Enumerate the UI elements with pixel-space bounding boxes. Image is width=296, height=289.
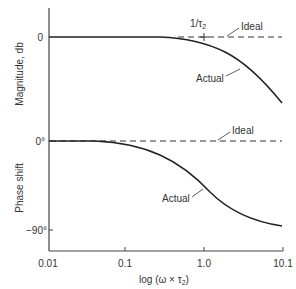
x-tick-label: 10.1 bbox=[273, 258, 293, 269]
phase-axis-label: Phase shift bbox=[14, 163, 25, 213]
x-axis-label: log (ω × τ2) bbox=[139, 274, 189, 286]
magnitude-axis-label: Magnitude, db bbox=[14, 42, 25, 106]
phase-zero-label: 0° bbox=[35, 136, 45, 147]
phase-m90-label: −90° bbox=[26, 225, 47, 236]
magnitude-actual-curve bbox=[49, 37, 282, 103]
pointer-arrow bbox=[227, 28, 239, 36]
magnitude-zero-label: 0 bbox=[37, 32, 43, 43]
bode-plot: 0.01 0.1 1.0 10.1 log (ω × τ2) Magnitude… bbox=[0, 0, 296, 289]
phase-ideal-label: Ideal bbox=[232, 125, 254, 136]
phase-actual-label: Actual bbox=[162, 193, 190, 204]
x-tick-label: 0.01 bbox=[38, 258, 58, 269]
phase-actual-curve bbox=[49, 141, 282, 226]
pointer-arrow bbox=[218, 132, 230, 140]
pointer-arrow bbox=[226, 69, 240, 76]
breakpoint-label: 1/τ2 bbox=[190, 18, 206, 30]
magnitude-actual-label: Actual bbox=[196, 73, 224, 84]
magnitude-ideal-label: Ideal bbox=[241, 21, 263, 32]
x-tick-label: 0.1 bbox=[118, 258, 132, 269]
pointer-arrow bbox=[192, 189, 203, 197]
x-tick-label: 1.0 bbox=[197, 258, 211, 269]
